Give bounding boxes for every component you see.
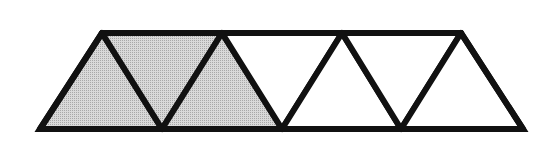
triangles-group <box>40 33 523 129</box>
triangle-strip-diagram <box>0 0 544 154</box>
